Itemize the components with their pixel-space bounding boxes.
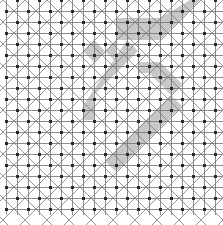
grid-diagram (0, 0, 223, 225)
shade-diamond (83, 40, 105, 62)
